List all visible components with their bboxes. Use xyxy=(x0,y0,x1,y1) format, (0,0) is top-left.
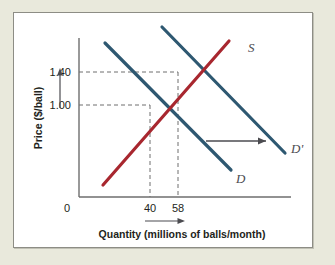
chart-panel: S D D' 1.40 1.00 40 58 0 xyxy=(13,12,313,248)
x-tick-label-58: 58 xyxy=(172,202,184,214)
axes-group xyxy=(79,38,291,197)
guide-lines-group xyxy=(79,72,178,197)
y-axis-title: Price ($/ball) xyxy=(32,87,44,149)
supply-curve-label: S xyxy=(248,40,255,55)
x-tick-label-40: 40 xyxy=(144,202,156,214)
x-axis-title: Quantity (millions of balls/month) xyxy=(99,228,266,240)
origin-label: 0 xyxy=(64,202,70,214)
demand-shift-arrow xyxy=(206,138,266,145)
demand-prime-curve-label: D' xyxy=(290,141,303,156)
figure-root: S D D' 1.40 1.00 40 58 0 xyxy=(0,0,335,265)
supply-demand-chart: S D D' 1.40 1.00 40 58 0 xyxy=(14,13,312,247)
demand-curve-label: D xyxy=(235,171,246,186)
quantity-increase-arrow xyxy=(145,218,185,224)
supply-curve-S xyxy=(103,41,229,185)
